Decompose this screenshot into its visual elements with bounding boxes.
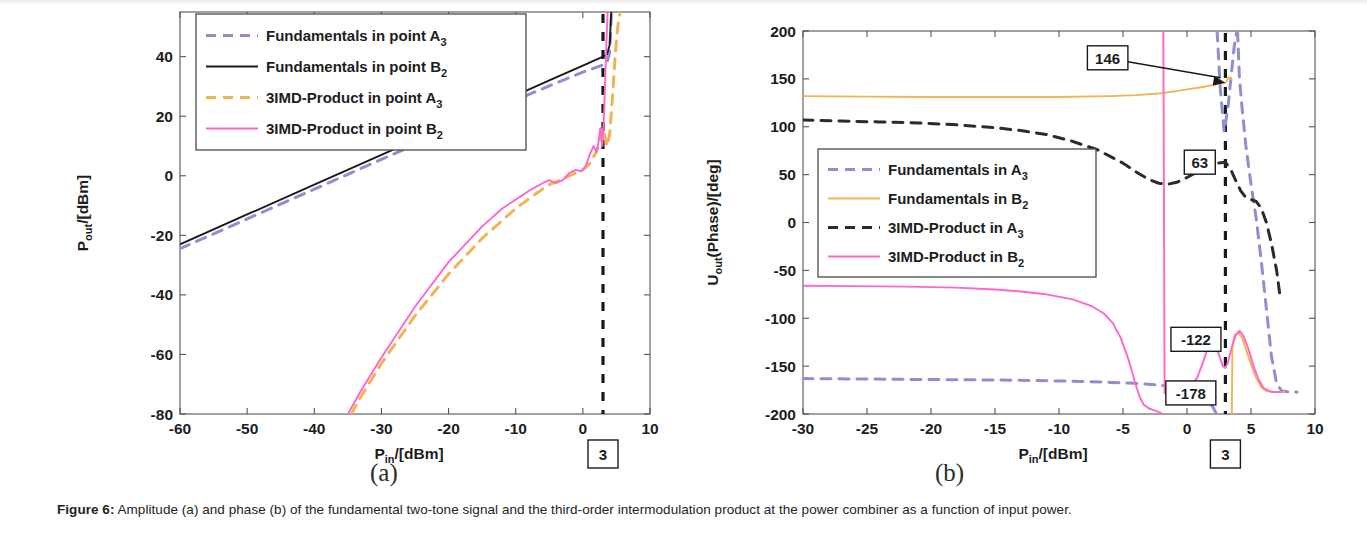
y-tick-label: 20 <box>156 108 173 125</box>
marker-axis-value: 3 <box>1221 446 1229 463</box>
series-line <box>1163 31 1164 393</box>
caption-text: Amplitude (a) and phase (b) of the funda… <box>114 502 1071 517</box>
x-tick-label: -60 <box>169 420 191 437</box>
figure-caption: Figure 6: Amplitude (a) and phase (b) of… <box>57 500 1329 520</box>
series-line <box>803 286 1163 414</box>
annotation-value: 63 <box>1191 154 1208 171</box>
figure-area: -60-50-40-30-20-1001040200-20-40-60-80Pi… <box>0 4 1367 492</box>
x-axis-title: Pin/[dBm] <box>1018 445 1087 465</box>
annotation-arrow <box>1128 62 1221 78</box>
annotation-value: -122 <box>1181 331 1211 348</box>
y-tick-label: 200 <box>770 23 796 40</box>
series-line <box>1238 31 1298 392</box>
series-line <box>1232 333 1284 414</box>
y-tick-label: 50 <box>779 166 796 183</box>
x-tick-label: -20 <box>920 420 942 437</box>
y-tick-label: -200 <box>765 406 796 423</box>
marker-axis-label: 3 <box>1210 440 1240 468</box>
panel-sublabel-a: (a) <box>370 459 398 487</box>
y-tick-label: -20 <box>151 227 173 244</box>
y-tick-label: 0 <box>164 167 173 184</box>
caption-label: Figure 6 <box>57 502 110 517</box>
y-axis-title: Pout/[dBm] <box>74 175 94 252</box>
y-tick-label: -80 <box>151 406 173 423</box>
series-line <box>803 379 1216 414</box>
series-line <box>803 77 1231 97</box>
x-tick-label: -10 <box>505 420 527 437</box>
annotation-group: 14663-122-178 <box>1087 46 1225 405</box>
x-tick-label: 10 <box>641 420 658 437</box>
y-axis-title: Uout(Phase)/[deg] <box>704 159 724 286</box>
x-tick-label: -40 <box>303 420 325 437</box>
y-tick-label: 150 <box>770 70 796 87</box>
annotation-value: 146 <box>1095 50 1120 67</box>
x-tick-label: -5 <box>1116 420 1130 437</box>
x-tick-label: -15 <box>984 420 1007 437</box>
y-tick-label: -100 <box>765 310 796 327</box>
x-tick-label: -30 <box>370 420 392 437</box>
figure-page: -60-50-40-30-20-1001040200-20-40-60-80Pi… <box>0 0 1367 554</box>
y-tick-label: 100 <box>770 118 796 135</box>
x-tick-label: -30 <box>792 420 814 437</box>
x-tick-label: -10 <box>1048 420 1070 437</box>
x-tick-label: 10 <box>1306 420 1323 437</box>
marker-axis-label: 3 <box>588 440 618 468</box>
y-tick-label: 0 <box>787 214 796 231</box>
chart-legend: Fundamentals in A3Fundamentals in B23IMD… <box>818 149 1096 277</box>
y-tick-label: -60 <box>151 346 173 363</box>
chart-legend: Fundamentals in point A3Fundamentals in … <box>196 14 526 150</box>
x-tick-label: 5 <box>1247 420 1256 437</box>
x-tick-label: -20 <box>437 420 459 437</box>
y-tick-label: -40 <box>151 286 173 303</box>
y-tick-label: -50 <box>774 262 796 279</box>
x-tick-label: 0 <box>1183 420 1192 437</box>
chart-panel-b: -30-25-20-15-10-50510200150100500-50-100… <box>690 4 1367 492</box>
y-tick-label: 40 <box>156 48 173 65</box>
panel-sublabel-b: (b) <box>935 459 964 487</box>
chart-panel-a: -60-50-40-30-20-1001040200-20-40-60-80Pi… <box>0 4 690 492</box>
x-tick-label: 0 <box>579 420 588 437</box>
y-tick-label: -150 <box>765 358 796 375</box>
marker-axis-value: 3 <box>599 446 607 463</box>
x-tick-label: -50 <box>236 420 258 437</box>
annotation-value: -178 <box>1176 385 1206 402</box>
x-tick-label: -25 <box>856 420 879 437</box>
